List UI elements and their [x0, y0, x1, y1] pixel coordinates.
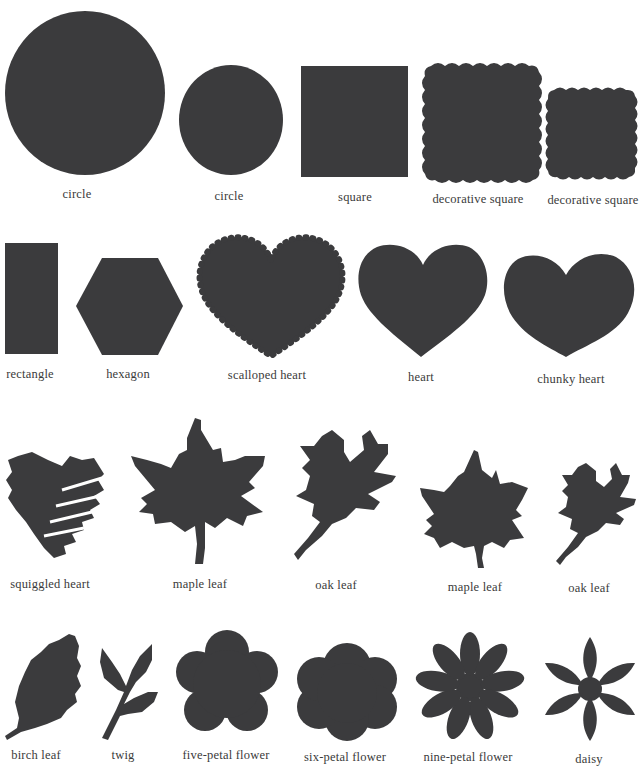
hexagon-label: hexagon	[106, 367, 150, 382]
maple-leaf-small-label: maple leaf	[448, 580, 502, 595]
circle-small-label: circle	[215, 189, 244, 204]
twig-shape	[96, 640, 160, 740]
maple-leaf-small-shape	[420, 450, 532, 568]
hexagon-shape	[76, 258, 184, 356]
decorative-square-large-label: decorative square	[432, 192, 523, 207]
circle-large-shape	[4, 10, 166, 176]
nine-petal-flower-shape	[416, 632, 524, 742]
oak-leaf-small-shape	[556, 459, 638, 567]
heart-label: heart	[408, 370, 434, 385]
six-petal-flower-shape	[295, 641, 399, 741]
squiggled-heart-label: squiggled heart	[10, 577, 90, 592]
twig-label: twig	[111, 748, 134, 763]
chunky-heart-shape	[502, 251, 638, 359]
birch-leaf-label: birch leaf	[11, 748, 61, 763]
five-petal-flower-shape	[175, 628, 279, 736]
scalloped-heart-label: scalloped heart	[228, 368, 306, 383]
maple-leaf-large-label: maple leaf	[173, 577, 227, 592]
decorative-square-small-shape	[549, 87, 639, 181]
squiggled-heart-shape	[4, 450, 106, 560]
maple-leaf-large-shape	[131, 416, 271, 566]
chunky-heart-label: chunky heart	[537, 372, 604, 387]
scalloped-heart-shape	[197, 234, 345, 358]
oak-leaf-small-label: oak leaf	[568, 581, 610, 596]
daisy-label: daisy	[575, 752, 602, 766]
decorative-square-large-shape	[425, 62, 537, 180]
rectangle-shape	[5, 243, 59, 355]
heart-shape	[357, 243, 489, 359]
circle-small-shape	[178, 64, 284, 176]
six-petal-flower-label: six-petal flower	[304, 750, 386, 765]
birch-leaf-shape	[5, 632, 81, 740]
daisy-shape	[545, 636, 635, 742]
nine-petal-flower-label: nine-petal flower	[423, 750, 512, 765]
square-label: square	[338, 190, 372, 205]
five-petal-flower-label: five-petal flower	[182, 748, 269, 763]
decorative-square-small-label: decorative square	[547, 193, 638, 208]
circle-large-label: circle	[63, 187, 92, 202]
oak-leaf-large-shape	[292, 424, 398, 564]
square-shape	[301, 66, 409, 178]
oak-leaf-large-label: oak leaf	[315, 578, 357, 593]
rectangle-label: rectangle	[6, 367, 54, 382]
